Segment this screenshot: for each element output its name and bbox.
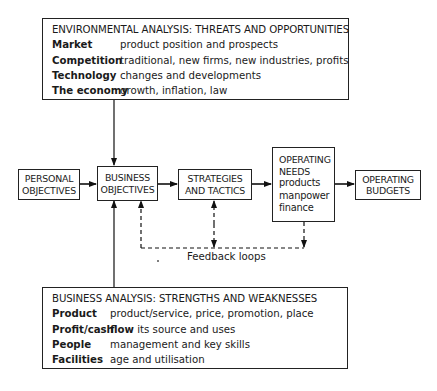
node-label: STRATEGIES (187, 173, 242, 185)
needs-item-products: products (279, 177, 320, 190)
needs-item-finance: finance (279, 202, 314, 215)
feedback-loops-label: Feedback loops (187, 251, 266, 262)
node-label: PERSONAL (25, 173, 73, 185)
biz-key: Profit/cash (52, 322, 110, 337)
env-row-technology: Technologychanges and developments (52, 68, 348, 83)
node-label: OBJECTIVES (22, 185, 76, 197)
node-label: BUSINESS (105, 172, 150, 184)
biz-value: product/service, price, promotion, place (110, 308, 314, 319)
biz-row-facilities: Facilitiesage and utilisation (52, 352, 347, 367)
biz-row-product: Productproduct/service, price, promotion… (52, 306, 347, 321)
env-row-competition: Competitiontraditional, new firms, new i… (52, 53, 348, 68)
node-label: OPERATING (362, 174, 414, 186)
personal-objectives-node: PERSONAL OBJECTIVES (18, 169, 80, 200)
env-value: growth, inflation, law (120, 85, 227, 96)
strategies-tactics-node: STRATEGIES AND TACTICS (178, 169, 252, 200)
biz-row-profit: Profit/cashflow its source and uses (52, 322, 347, 337)
biz-key: Product (52, 306, 110, 321)
node-label: NEEDS (279, 166, 310, 178)
business-objectives-node: BUSINESS OBJECTIVES (97, 166, 158, 201)
env-key: The economy (52, 83, 120, 98)
node-label: OBJECTIVES (101, 184, 155, 196)
stray-dot (157, 260, 159, 262)
operating-budgets-node: OPERATING BUDGETS (355, 170, 421, 200)
env-value: changes and developments (120, 70, 261, 81)
needs-item-manpower: manpower (279, 190, 329, 203)
biz-key: Facilities (52, 352, 110, 367)
node-label: AND TACTICS (185, 185, 245, 197)
environmental-analysis-title: ENVIRONMENTAL ANALYSIS: THREATS AND OPPO… (52, 22, 348, 37)
operating-needs-node: OPERATING NEEDS products manpower financ… (272, 147, 335, 222)
biz-value: management and key skills (110, 339, 250, 350)
env-key: Market (52, 37, 120, 52)
env-key: Technology (52, 68, 120, 83)
biz-value: age and utilisation (110, 354, 205, 365)
biz-row-people: Peoplemanagement and key skills (52, 337, 347, 352)
env-row-economy: The economygrowth, inflation, law (52, 83, 348, 98)
biz-key-extra: flow (110, 324, 134, 335)
env-value: traditional, new firms, new industries, … (120, 55, 348, 66)
environmental-analysis-box: ENVIRONMENTAL ANALYSIS: THREATS AND OPPO… (42, 18, 349, 100)
env-value: product position and prospects (120, 39, 278, 50)
env-row-market: Marketproduct position and prospects (52, 37, 348, 52)
biz-value: its source and uses (137, 324, 235, 335)
node-label: BUDGETS (366, 185, 410, 197)
biz-key: People (52, 337, 110, 352)
env-key: Competition (52, 53, 120, 68)
business-analysis-title: BUSINESS ANALYSIS: STRENGTHS AND WEAKNES… (52, 291, 347, 306)
node-label: OPERATING (279, 154, 331, 166)
business-analysis-box: BUSINESS ANALYSIS: STRENGTHS AND WEAKNES… (42, 287, 348, 369)
